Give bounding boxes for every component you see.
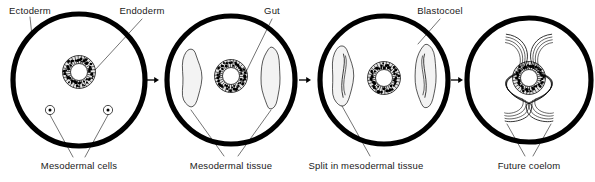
endoderm-nucleus [525,88,527,90]
endoderm-nucleus [393,85,395,87]
endoderm-nucleus [71,80,74,83]
endoderm-nucleus [233,88,236,91]
endoderm-nucleus [372,81,374,83]
mesoderm-blob-left [182,49,202,107]
endoderm-nucleus [231,86,233,88]
endoderm-nucleus [86,78,88,80]
arrow-3-to-4 [451,77,463,83]
endoderm-nucleus [90,63,92,65]
split-in-mesodermal-tissue-label: Split in mesodermal tissue [309,160,424,171]
endoderm-nucleus [516,72,519,75]
endoderm-nucleus [393,73,395,75]
endoderm-nucleus [371,70,373,72]
endoderm-nucleus [239,82,241,84]
mesodermal-tissue-label: Mesodermal tissue [190,160,272,171]
endoderm-nucleus [91,77,93,79]
endoderm-nucleus [89,66,92,69]
endoderm-nucleus [380,91,383,94]
gut-ring-panel-4 [513,62,546,95]
endoderm-nucleus [229,89,232,92]
endoderm-nucleus [390,85,393,88]
endoderm-nucleus [377,90,380,93]
endoderm-nucleus [238,83,240,85]
gut-inner-outline [376,70,393,87]
endoderm-nucleus [393,66,396,69]
mesoderm-blob-right [261,47,280,109]
endoderm-nucleus [221,68,223,70]
mesodermal-cells-leader-left [50,115,73,157]
endoderm-nucleus [66,75,68,77]
endoderm-nucleus [380,65,383,68]
endoderm-nucleus [224,84,226,86]
endoderm-nucleus [90,68,92,70]
endoderm-nucleus [386,64,389,67]
endoderm-nucleus [243,74,246,77]
endoderm-nucleus [243,68,246,71]
endoderm-nucleus [218,79,220,81]
endoderm-nucleus [218,75,220,77]
mesodermal-cell-nucleus [49,109,52,112]
endoderm-nucleus [225,62,227,64]
endoderm-nucleus [219,71,221,73]
endoderm-nucleus [219,73,221,75]
arrow-head [154,77,159,83]
ectoderm-wall-panel-4 [467,18,591,142]
arrow-2-to-3 [299,77,311,83]
endoderm-nucleus [380,67,382,69]
endoderm-nucleus [218,83,221,86]
endoderm-nucleus [540,72,542,74]
endoderm-nucleus [223,62,225,64]
endoderm-nucleus [393,70,395,72]
endoderm-nucleus [73,80,76,83]
endoderm-nucleus [378,68,380,70]
endoderm-nucleus [78,82,81,85]
endoderm-nucleus [371,75,374,78]
endoderm-nucleus [377,86,379,88]
ectoderm-wall-panel-1 [13,14,145,146]
endoderm-nucleus [519,65,521,67]
endoderm-nucleus [67,60,70,63]
endoderm-nucleus [537,67,539,69]
endoderm-nucleus [69,64,71,66]
gut-ring-panel-3 [368,62,401,95]
endoderm-nucleus [64,72,67,75]
endoderm-nucleus [518,69,521,72]
endoderm-nucleus [388,66,391,69]
gut-ring-panel-1 [63,56,96,89]
gut-inner-outline [223,68,240,85]
endoderm-nucleus [242,80,244,82]
endoderm-nucleus [390,69,392,71]
endoderm-nucleus [534,86,536,88]
arrow-head [306,77,311,83]
endoderm-nucleus [90,73,93,76]
gut-inner-outline [521,70,538,87]
endoderm-nucleus [530,90,532,92]
endoderm-nucleus [395,76,397,78]
mesodermal-cells-leader-right [85,115,108,157]
endoderm-nucleus [232,65,234,67]
diagram-canvas: EctodermEndodermMesodermal cellsGutMesod… [0,0,595,182]
endoderm-nucleus [542,76,545,79]
endoderm-nucleus [522,90,525,93]
endoderm-nucleus [82,84,84,86]
arrow-head [458,77,463,83]
endoderm-nucleus [68,82,70,84]
endoderm-nucleus [385,89,388,92]
endoderm-nucleus [382,62,384,64]
endoderm-nucleus [226,88,228,90]
endoderm-nucleus [83,80,85,82]
endoderm-nucleus [65,69,67,71]
endoderm-nucleus [217,67,220,70]
endoderm-nucleus [240,78,243,81]
mesodermal-cell-nucleus [107,109,110,112]
endoderm-nucleus [540,80,542,82]
gut-label: Gut [264,5,280,16]
arrow-1-to-2 [147,77,159,83]
endoderm-nucleus [372,85,375,88]
endoderm-nucleus [88,70,91,73]
future-coelom-label: Future coelom [498,160,561,171]
endoderm-nucleus [81,61,83,63]
endoderm-nucleus [383,88,385,90]
endoderm-nucleus [541,78,543,80]
endoderm-nucleus [539,85,542,88]
